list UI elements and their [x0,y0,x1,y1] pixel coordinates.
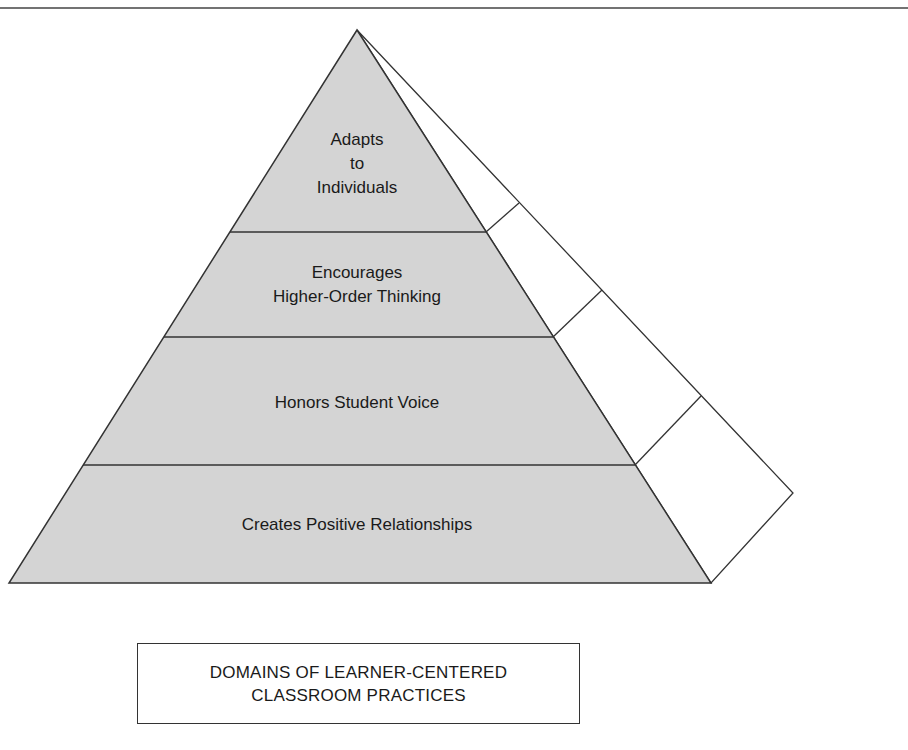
label-line: Creates Positive Relationships [187,513,527,537]
level-label-base: Creates Positive Relationships [187,513,527,537]
level-label-second: Encourages Higher-Order Thinking [227,261,487,309]
caption-line-1: DOMAINS OF LEARNER-CENTERED [210,661,507,684]
label-line: Higher-Order Thinking [227,285,487,309]
label-line: Adapts [277,128,437,152]
caption-line-2: CLASSROOM PRACTICES [251,684,465,707]
label-line: Individuals [277,176,437,200]
label-line: to [277,152,437,176]
caption-box: DOMAINS OF LEARNER-CENTERED CLASSROOM PR… [137,643,580,724]
label-line: Honors Student Voice [207,391,507,415]
pyramid-diagram [0,0,908,750]
label-line: Encourages [227,261,487,285]
level-label-third: Honors Student Voice [207,391,507,415]
level-label-top: Adapts to Individuals [277,128,437,200]
